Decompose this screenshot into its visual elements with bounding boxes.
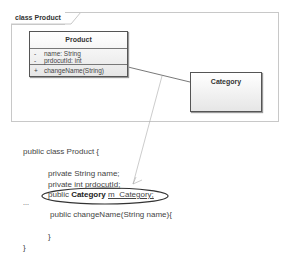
code-field-name: private String name; xyxy=(48,169,120,178)
code-ellipsis: ... xyxy=(23,199,29,206)
operations-compartment: +changeName(String) xyxy=(30,65,127,74)
note-line xyxy=(133,76,162,184)
class-name: Category xyxy=(191,73,261,85)
association-line xyxy=(128,67,190,82)
code-method: public changeName(String name){ xyxy=(50,210,172,219)
class-name: Product xyxy=(30,32,127,49)
attributes-compartment: -name: String -prdocutId: int xyxy=(30,49,127,65)
code-class-decl: public class Product { xyxy=(23,147,99,156)
operation: +changeName(String) xyxy=(30,67,127,74)
class-category[interactable]: Category xyxy=(190,72,262,112)
attribute: -prdocutId: int xyxy=(30,57,127,64)
code-class-close: } xyxy=(23,243,26,252)
code-field-category: public Category m_Category; xyxy=(48,190,154,199)
code-field-id: private int prdocutId; xyxy=(48,180,120,189)
code-method-close: } xyxy=(48,232,51,241)
attribute: -name: String xyxy=(30,50,127,57)
class-product[interactable]: Product -name: String -prdocutId: int +c… xyxy=(29,31,128,77)
